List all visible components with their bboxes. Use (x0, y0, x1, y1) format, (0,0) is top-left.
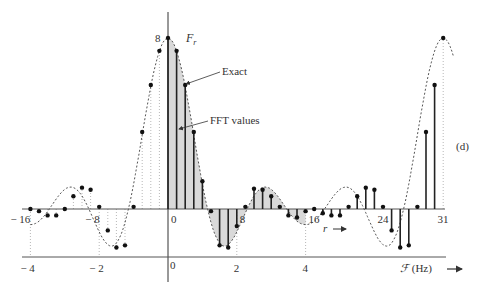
panel-label: (d) (456, 140, 469, 153)
svg-text:− 2: − 2 (89, 262, 103, 274)
svg-text:16: 16 (309, 213, 321, 225)
annotation-exact: Exact (222, 65, 247, 77)
svg-text:− 16: − 16 (10, 213, 30, 225)
peak-label: 8 (155, 32, 161, 44)
f-axis-label: ℱ (Hz) (400, 262, 432, 275)
exact-arrow (186, 72, 220, 84)
chart-figure: 8 Fr Exact FFT values (d) − 16− 80816243… (0, 0, 502, 291)
function-label: Fr (185, 31, 197, 47)
function-subscript: r (193, 38, 197, 47)
svg-text:0: 0 (170, 259, 176, 271)
f-tick-labels: − 4− 2024 (20, 259, 308, 274)
svg-text:24: 24 (377, 213, 389, 225)
svg-text:8: 8 (240, 213, 246, 225)
r-axis-label: r (323, 222, 328, 234)
svg-text:31: 31 (438, 213, 449, 225)
svg-text:0: 0 (171, 213, 177, 225)
svg-text:2: 2 (234, 262, 240, 274)
svg-text:− 4: − 4 (20, 262, 35, 274)
annotation-fft: FFT values (210, 114, 260, 126)
svg-text:4: 4 (303, 262, 309, 274)
svg-text:− 8: − 8 (85, 213, 100, 225)
